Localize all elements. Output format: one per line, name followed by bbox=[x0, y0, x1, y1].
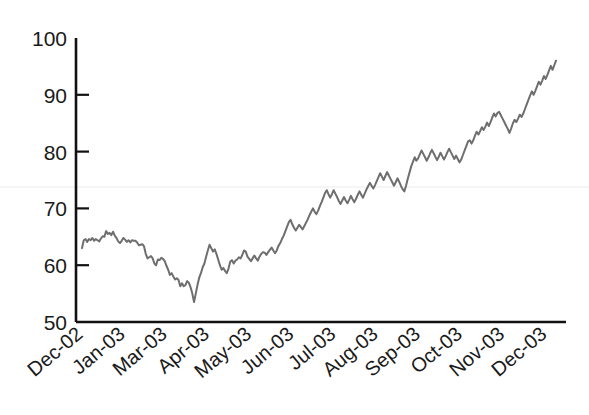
y-tick-label-90: 90 bbox=[44, 84, 67, 107]
y-tick-label-80: 80 bbox=[44, 141, 67, 164]
y-tick-label-100: 100 bbox=[32, 27, 67, 50]
line-chart: 5060708090100 Dec-02Jan-03Mar-03Apr-03Ma… bbox=[0, 0, 589, 415]
chart-canvas: 5060708090100 Dec-02Jan-03Mar-03Apr-03Ma… bbox=[0, 0, 589, 415]
y-tick-label-70: 70 bbox=[44, 197, 67, 220]
y-tick-label-60: 60 bbox=[44, 254, 67, 277]
